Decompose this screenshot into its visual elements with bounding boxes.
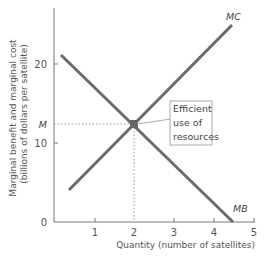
origin-label: 0 bbox=[41, 217, 47, 228]
callout-line-2: use of bbox=[173, 117, 203, 128]
x-tick-label-2: 2 bbox=[131, 227, 137, 238]
y-tick-label-10: 10 bbox=[34, 138, 47, 149]
x-tick-label-1: 1 bbox=[92, 227, 98, 238]
y-tick-label-m: M bbox=[39, 119, 47, 130]
x-axis-title: Quantity (number of satellites) bbox=[116, 240, 255, 250]
y-axis-title-line-1: Marginal benefit and marginal cost bbox=[8, 39, 18, 197]
mc-label: MC bbox=[226, 11, 241, 22]
chart-svg: 20 10 0 M 1 2 3 4 5 MC MB Efficient use … bbox=[0, 0, 267, 263]
x-tick-label-3: 3 bbox=[171, 227, 177, 238]
y-axis-title-line-2: (billions of dollars per satellite) bbox=[19, 44, 29, 184]
callout-line-3: resources bbox=[173, 131, 219, 142]
mb-label: MB bbox=[233, 203, 248, 214]
y-tick-label-20: 20 bbox=[34, 59, 47, 70]
equilibrium-point bbox=[130, 120, 138, 128]
callout-line-1: Efficient bbox=[173, 103, 212, 114]
callout-leader bbox=[137, 119, 171, 124]
x-tick-label-5: 5 bbox=[251, 227, 257, 238]
x-tick-label-4: 4 bbox=[211, 227, 217, 238]
